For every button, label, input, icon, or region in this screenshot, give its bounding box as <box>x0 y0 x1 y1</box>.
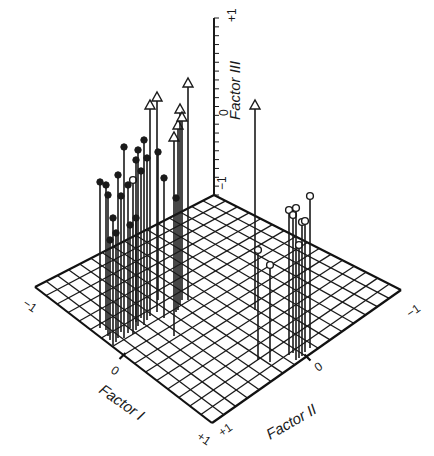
factor-i-tick-minus1: −1 <box>20 296 40 316</box>
filled-circle-marker <box>121 144 127 150</box>
factor-iii-tick-0: 0 <box>217 109 231 116</box>
factor-i-tick-plus1: +1 <box>194 429 214 449</box>
filled-circle-marker <box>161 175 167 181</box>
factor-iii-axis <box>214 18 219 195</box>
open-circle-marker <box>302 218 309 225</box>
factor-3d-plot: Factor III +1 0 −1 −1 0 +1 Factor I +1 0… <box>0 0 434 456</box>
open-arrow-marker <box>183 78 193 87</box>
filled-circle-marker <box>173 195 179 201</box>
factor-i-tick-0: 0 <box>108 363 122 378</box>
filled-circle-marker <box>141 137 147 143</box>
open-arrow-marker <box>175 104 185 113</box>
open-circle-marker <box>267 262 274 269</box>
factor-iii-tick-plus1: +1 <box>225 8 239 22</box>
filled-circle-marker <box>105 192 111 198</box>
factor-ii-tick-0: 0 <box>312 359 326 374</box>
factor-ii-tick-plus1: +1 <box>216 420 236 440</box>
filled-circle-marker <box>155 149 161 155</box>
filled-circle-marker <box>115 172 121 178</box>
factor-plane-grid <box>35 195 401 423</box>
factor-ii-tick-minus1: −1 <box>404 301 424 321</box>
open-arrow-marker <box>152 92 162 101</box>
filled-circle-marker <box>110 215 116 221</box>
open-circle-marker <box>307 193 314 200</box>
factor-ii-title: Factor II <box>263 400 319 442</box>
open-arrow-marker <box>250 100 260 109</box>
filled-circle-marker <box>135 147 141 153</box>
open-circle-marker <box>293 205 300 212</box>
factor-iii-tick-minus1: −1 <box>215 176 229 190</box>
filled-circle-marker <box>97 179 103 185</box>
filled-circle-marker <box>103 182 109 188</box>
factor-i-title: Factor I <box>96 381 147 424</box>
open-circle-marker <box>255 247 262 254</box>
